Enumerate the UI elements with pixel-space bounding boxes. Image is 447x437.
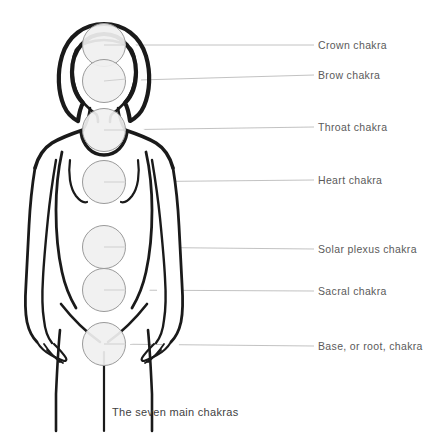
label-heart-chakra: Heart chakra <box>318 175 382 186</box>
label-sacral-chakra: Sacral chakra <box>318 286 387 297</box>
leader-line-base <box>104 344 314 346</box>
label-base-chakra: Base, or root, chakra <box>318 341 423 352</box>
human-figure-illustration <box>0 0 447 437</box>
chakra-diagram-canvas: Crown chakra Brow chakra Throat chakra H… <box>0 0 447 437</box>
label-crown-chakra: Crown chakra <box>318 40 387 51</box>
label-solar-plexus-chakra: Solar plexus chakra <box>318 244 417 255</box>
label-throat-chakra: Throat chakra <box>318 122 387 133</box>
label-brow-chakra: Brow chakra <box>318 70 380 81</box>
diagram-caption: The seven main chakras <box>112 407 238 418</box>
